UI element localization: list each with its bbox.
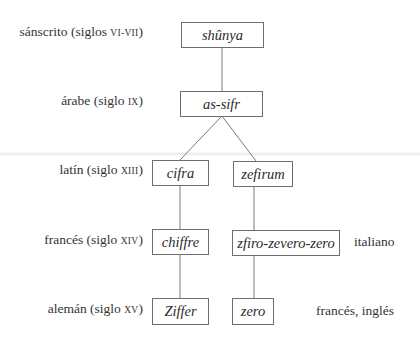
language-name: árabe [61, 93, 90, 108]
period-suffix: ) [139, 24, 144, 39]
period-prefix: (siglo [87, 162, 121, 177]
node-ziffer: Ziffer [152, 298, 209, 325]
node-cifra: cifra [152, 160, 209, 186]
stage-label-french: francés (siglo xiv) [0, 232, 143, 252]
period-prefix: (siglo [87, 232, 121, 247]
period-prefix: (siglos [71, 24, 110, 39]
period-numeral: vi-vii [110, 28, 138, 38]
period-prefix: (siglo [90, 301, 124, 316]
language-name: alemán [48, 301, 87, 316]
stage-label-arabic: árabe (siglo ix) [0, 93, 143, 113]
period-suffix: ) [139, 301, 144, 316]
period-numeral: ix [128, 97, 139, 107]
period-numeral: xiii [121, 166, 139, 176]
language-name: latín [59, 162, 83, 177]
side-label-frances-ingles: francés, inglés [316, 303, 394, 319]
period-suffix: ) [139, 162, 144, 177]
node-zfiro-zevero-zero: zfiro-zevero-zero [232, 230, 340, 256]
stage-label-latin: latín (siglo xiii) [0, 162, 143, 182]
language-name: francés [44, 232, 83, 247]
node-as-sifr: as-sifr [180, 91, 263, 117]
period-suffix: ) [139, 93, 144, 108]
node-shunya: shûnya [181, 22, 264, 48]
node-chiffre: chiffre [152, 229, 209, 255]
period-prefix: (siglo [94, 93, 128, 108]
node-zero: zero [232, 298, 274, 325]
side-label-italiano: italiano [354, 234, 395, 250]
node-zefirum: zefirum [233, 161, 293, 187]
period-suffix: ) [139, 232, 144, 247]
period-numeral: xv [124, 305, 138, 315]
edge-assifr-zefirum [222, 116, 256, 161]
stage-label-sanskrit: sánscrito (siglos vi-vii) [0, 24, 143, 44]
period-numeral: xiv [121, 236, 139, 246]
edge-assifr-cifra [180, 116, 222, 160]
language-name: sánscrito [20, 24, 68, 39]
stage-label-german: alemán (siglo xv) [0, 301, 143, 321]
